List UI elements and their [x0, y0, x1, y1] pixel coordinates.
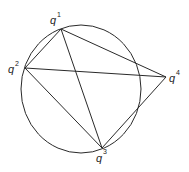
label-index-q2: 2 — [15, 60, 19, 67]
segment-q2-q4 — [25, 68, 166, 77]
circumcircle — [21, 25, 141, 153]
label-index-q3: 3 — [103, 148, 107, 155]
segment-q3-q4 — [102, 77, 166, 148]
label-q2: q — [8, 63, 15, 75]
point-labels: q1q2q3q4 — [8, 11, 180, 164]
label-index-q4: 4 — [176, 69, 180, 76]
segment-q1-q2 — [25, 29, 61, 68]
segments — [25, 29, 166, 148]
label-q1: q — [50, 14, 57, 26]
label-q3: q — [96, 152, 103, 164]
segment-q1-q4 — [61, 29, 166, 77]
diagram-canvas: q1q2q3q4 — [0, 0, 189, 172]
segment-q1-q3 — [61, 29, 102, 148]
label-index-q1: 1 — [57, 11, 61, 18]
segment-q2-q3 — [25, 68, 102, 148]
label-q4: q — [169, 72, 176, 84]
